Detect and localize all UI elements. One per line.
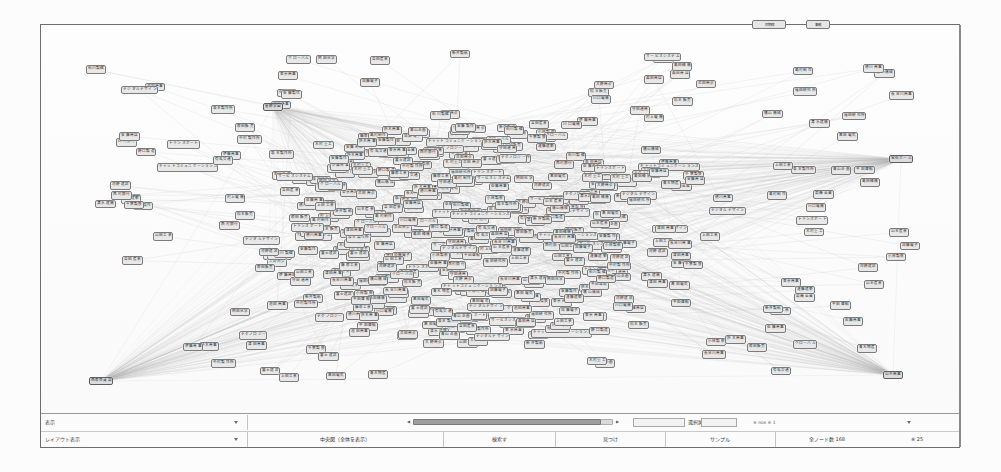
graph-node[interactable]: 安藤商店 bbox=[403, 200, 423, 209]
graph-node[interactable]: 上田工業 bbox=[700, 232, 720, 241]
graph-node[interactable]: 横山機械 bbox=[762, 110, 782, 119]
chevron-down-icon-1[interactable] bbox=[234, 421, 238, 424]
graph-node[interactable]: トランスポート bbox=[291, 223, 324, 232]
graph-node[interactable]: 有馬交通 bbox=[368, 148, 388, 157]
graph-node[interactable]: 守田通商 bbox=[497, 145, 517, 154]
graph-node[interactable]: 岡田化学 bbox=[545, 276, 565, 285]
graph-node[interactable]: 松本販売 bbox=[402, 279, 422, 288]
graph-node[interactable]: 青木物産 bbox=[857, 344, 877, 353]
graph-hub-node[interactable]: 宝石ホール bbox=[889, 155, 914, 164]
graph-node[interactable]: 河野建設 bbox=[377, 263, 397, 272]
graph-node[interactable]: 新井製紙 bbox=[333, 208, 353, 217]
graph-node[interactable]: 島村制作 bbox=[767, 191, 787, 200]
graph-node[interactable]: 伊藤商事 bbox=[183, 343, 203, 352]
graph-node[interactable]: 遠藤建築 bbox=[588, 253, 608, 262]
graph-node[interactable]: 安藤商店 bbox=[374, 241, 394, 250]
graph-node[interactable]: 山本産業 bbox=[355, 206, 375, 215]
graph-node[interactable]: 佐藤商事 bbox=[843, 317, 863, 326]
graph-node[interactable]: 野口製造 bbox=[596, 275, 616, 284]
graph-node[interactable]: 津田商事 bbox=[671, 252, 691, 261]
graph-node[interactable]: グローバル bbox=[793, 340, 818, 349]
graph-node[interactable]: 津田商事 bbox=[655, 225, 675, 234]
graph-node[interactable]: 青山企画 bbox=[408, 127, 428, 136]
graph-node[interactable]: 岡田化学 bbox=[230, 308, 250, 317]
graph-node[interactable]: 加藤電子 bbox=[360, 78, 380, 87]
graph-node[interactable]: 石川製糖 bbox=[504, 126, 524, 135]
graph-node[interactable]: テクノロジー bbox=[315, 313, 344, 322]
graph-node[interactable]: 川口電機 bbox=[806, 203, 826, 212]
graph-node[interactable]: 野口製造 bbox=[589, 327, 609, 336]
graph-canvas[interactable]: 青木物産富士建設山田工業中村製作所東京商事福田研究所高橋金属石川製糖川口電機松本… bbox=[41, 25, 959, 413]
graph-node[interactable]: 千葉製鉄 bbox=[124, 201, 144, 210]
graph-node[interactable]: 遠藤建築 bbox=[536, 143, 556, 152]
graph-node[interactable]: 山本産業 bbox=[864, 280, 884, 289]
graph-node[interactable]: 村上電機 bbox=[225, 194, 245, 203]
graph-node[interactable]: 青木物産 bbox=[661, 180, 681, 189]
graph-node[interactable]: 西村銀行 bbox=[418, 149, 438, 158]
graph-node[interactable]: サービスシステム bbox=[276, 173, 313, 182]
graph-node[interactable]: 坂本製作所 bbox=[269, 150, 294, 159]
graph-node[interactable]: 野口製造 bbox=[136, 148, 156, 157]
graph-node[interactable]: 鈴木商事 bbox=[357, 138, 377, 147]
graph-node[interactable]: 富士建設 bbox=[260, 367, 280, 376]
graph-node[interactable]: 加藤電子 bbox=[573, 244, 593, 253]
graph-node[interactable]: 野口製造 bbox=[429, 224, 449, 233]
graph-node[interactable]: 原田販売 bbox=[514, 229, 534, 238]
graph-node[interactable]: 石川製糖 bbox=[86, 65, 106, 74]
graph-node[interactable]: 千葉製鉄 bbox=[683, 261, 703, 270]
graph-node[interactable]: 富士建設 bbox=[348, 250, 368, 259]
graph-node[interactable]: 新井製紙 bbox=[524, 340, 544, 349]
graph-node[interactable]: 横山機械 bbox=[368, 276, 388, 285]
graph-node[interactable]: 川口電機 bbox=[613, 302, 633, 311]
graph-node[interactable]: グローバル bbox=[286, 55, 311, 64]
graph-node[interactable]: 木村重工 bbox=[352, 166, 372, 175]
graph-node[interactable]: 長谷川商事 bbox=[702, 350, 727, 359]
graph-node[interactable]: 森田商店 bbox=[670, 70, 690, 79]
graph-node[interactable]: 遠藤建築 bbox=[795, 286, 815, 295]
graph-node[interactable]: 島村制作 bbox=[452, 175, 472, 184]
graph-node[interactable]: 鈴木商事 bbox=[359, 312, 379, 321]
graph-node[interactable]: 富士建設 bbox=[564, 257, 584, 266]
graph-node[interactable]: 新井製紙 bbox=[763, 305, 783, 314]
graph-node[interactable]: 安藤製作 bbox=[376, 137, 396, 146]
graph-node[interactable]: サービスシステム bbox=[644, 53, 681, 62]
graph-node[interactable]: 黒田電気 bbox=[326, 372, 346, 381]
zoom-slider-thumb[interactable] bbox=[413, 419, 601, 425]
graph-node[interactable]: 長谷川商事 bbox=[383, 287, 408, 296]
top-overlay-chip[interactable]: 同期線 bbox=[752, 20, 786, 29]
graph-node[interactable]: 岡田化学 bbox=[316, 55, 336, 64]
graph-node[interactable]: 青木物産 bbox=[431, 288, 451, 297]
graph-node[interactable]: 中村製作所 bbox=[294, 300, 319, 309]
graph-node[interactable]: 大野商会 bbox=[423, 339, 443, 348]
graph-node[interactable]: 安藤製作 bbox=[455, 123, 475, 132]
graph-node[interactable]: 上田工業 bbox=[279, 373, 299, 382]
graph-node[interactable]: 山本産業 bbox=[543, 198, 563, 207]
graph-node[interactable]: 坂本製作所 bbox=[791, 166, 816, 175]
graph-node[interactable]: 黒田電気 bbox=[837, 132, 857, 141]
graph-node[interactable]: 小林製薬 bbox=[603, 242, 623, 251]
graph-node[interactable]: 佐藤商事 bbox=[489, 183, 509, 192]
graph-node[interactable]: 松本販売 bbox=[235, 211, 255, 220]
graph-node[interactable]: 河野建設 bbox=[532, 182, 552, 191]
graph-node[interactable]: デジタルデザイン bbox=[467, 303, 504, 312]
graph-hub-node[interactable]: 西原百貨店 bbox=[89, 377, 114, 386]
graph-node[interactable]: トランスポート bbox=[167, 140, 200, 149]
graph-node[interactable]: 池田商事 bbox=[267, 301, 287, 310]
graph-node[interactable]: 河野建設 bbox=[647, 248, 667, 257]
graph-node[interactable]: 平田運輸 bbox=[351, 296, 371, 305]
graph-node[interactable]: 山田工業 bbox=[153, 232, 173, 241]
graph-node[interactable]: 大野商会 bbox=[594, 81, 614, 90]
graph-node[interactable]: 福田研究所 bbox=[627, 197, 652, 206]
graph-node[interactable]: 山田工業 bbox=[294, 269, 314, 278]
graph-node[interactable]: 河野建設 bbox=[858, 263, 878, 272]
graph-node[interactable]: 坂本製作所 bbox=[211, 105, 236, 114]
graph-node[interactable]: 有馬交通 bbox=[771, 367, 791, 376]
graph-node[interactable]: 小林製薬 bbox=[706, 338, 726, 347]
graph-node[interactable]: 坂本製作所 bbox=[495, 201, 520, 210]
graph-node[interactable]: 上田工業 bbox=[315, 202, 335, 211]
chevron-down-icon-3[interactable] bbox=[907, 421, 911, 424]
graph-node[interactable]: 島村制作 bbox=[373, 213, 393, 222]
graph-node[interactable]: テクノロジー bbox=[239, 331, 268, 340]
graph-node[interactable]: 青山企画 bbox=[439, 331, 459, 340]
graph-node[interactable]: 遠藤建築 bbox=[564, 294, 584, 303]
